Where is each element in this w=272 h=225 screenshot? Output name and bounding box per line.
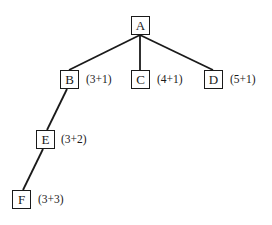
node-d-annotation: (5+1) (230, 74, 256, 86)
node-b-label: B (65, 73, 74, 86)
edge-b-e (47, 89, 67, 130)
node-c: C (131, 70, 150, 89)
node-e-annotation: (3+2) (61, 134, 87, 146)
node-b: B (60, 70, 79, 89)
node-d-label: D (209, 73, 218, 86)
node-b-annotation: (3+1) (86, 74, 112, 86)
node-a: A (131, 16, 150, 35)
node-f-label: F (18, 193, 25, 206)
edge-a-b (69, 35, 140, 70)
node-e-label: E (42, 133, 50, 146)
node-e: E (36, 130, 55, 149)
node-a-label: A (136, 19, 145, 32)
node-d: D (204, 70, 223, 89)
node-f-annotation: (3+3) (38, 194, 64, 206)
node-f: F (12, 190, 31, 209)
edge-a-d (140, 35, 213, 70)
node-c-annotation: (4+1) (157, 74, 183, 86)
node-c-label: C (136, 73, 145, 86)
edge-e-f (23, 149, 43, 190)
